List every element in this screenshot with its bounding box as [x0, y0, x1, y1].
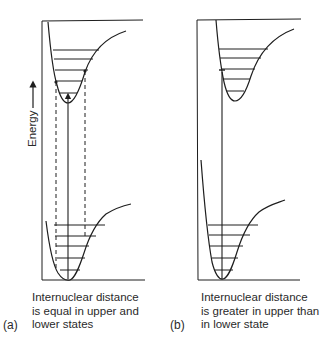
panel-b-upper-potential-curve [216, 20, 294, 101]
panel-b-caption-line-3: in lower state [201, 318, 319, 332]
panel-a-label: (a) [3, 318, 18, 332]
panel-b-caption-line-2: is greater in upper than [201, 305, 319, 319]
panel-b-caption-line-1: Internuclear distance [201, 291, 319, 305]
panel-b-energy-axis [197, 20, 198, 280]
panel-b-lower-potential-curve [201, 160, 285, 279]
panel-a-lower-vibrational-levels [54, 225, 105, 270]
energy-axis-label: Energy [26, 111, 38, 147]
panel-b-top-axis [197, 19, 301, 20]
panel-b-caption: Internuclear distance is greater in uppe… [201, 291, 319, 332]
panel-a-caption-line-3: lower states [32, 318, 139, 332]
panel-a-top-axis [42, 20, 143, 21]
panel-b [197, 19, 301, 280]
panel-b-label: (b) [170, 318, 185, 332]
panel-a-upper-potential-curve [48, 22, 126, 103]
panel-a-caption-line-1: Internuclear distance [32, 291, 139, 305]
panel-a-lower-potential-curve [46, 204, 131, 280]
panel-a [33, 20, 145, 280]
potential-energy-diagram [0, 0, 334, 341]
panel-a-caption-line-2: is equal in upper and [32, 305, 139, 319]
panel-a-caption: Internuclear distance is equal in upper … [32, 291, 139, 332]
